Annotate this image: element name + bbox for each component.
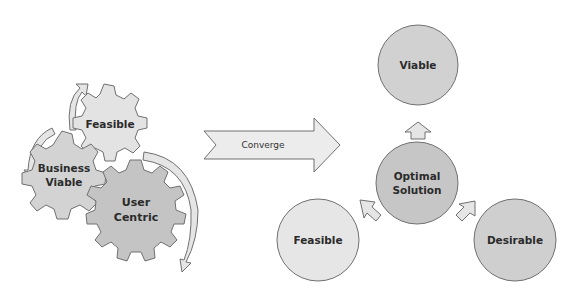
diagram-canvas: Feasible Business Viable User Centric Co… <box>0 0 564 293</box>
gear-user-label-2: Centric <box>114 211 158 224</box>
circle-feasible: Feasible <box>277 199 359 281</box>
arrow-down-left-icon <box>360 200 381 221</box>
circle-viable: Viable <box>378 25 458 105</box>
gear-business-label-1: Business <box>38 162 90 174</box>
feasible-label: Feasible <box>293 234 342 246</box>
optimal-label-1: Optimal <box>394 170 441 182</box>
gear-business-label-2: Viable <box>46 176 83 188</box>
gear-user-label-1: User <box>122 196 151 209</box>
converge-label: Converge <box>241 140 285 150</box>
optimal-label-2: Solution <box>392 184 441 196</box>
desirable-label: Desirable <box>487 234 543 246</box>
circle-desirable: Desirable <box>474 199 556 281</box>
arrow-down-right-icon <box>456 201 475 221</box>
converge-arrow-icon: Converge <box>204 118 340 172</box>
arrow-up-icon <box>405 122 431 139</box>
gear-feasible-label: Feasible <box>85 118 134 130</box>
circle-optimal-solution: Optimal Solution <box>376 142 458 224</box>
viable-label: Viable <box>400 59 437 71</box>
